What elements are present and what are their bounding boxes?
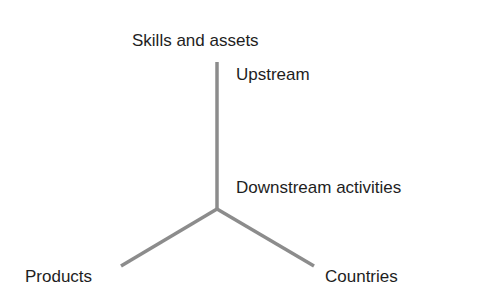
- left-axis-line: [121, 209, 217, 266]
- upstream-label: Upstream: [236, 66, 310, 83]
- right-axis-line: [217, 209, 314, 266]
- skills-assets-label: Skills and assets: [132, 32, 259, 49]
- downstream-activities-label: Downstream activities: [236, 179, 401, 196]
- products-label: Products: [25, 268, 92, 285]
- countries-label: Countries: [325, 268, 398, 285]
